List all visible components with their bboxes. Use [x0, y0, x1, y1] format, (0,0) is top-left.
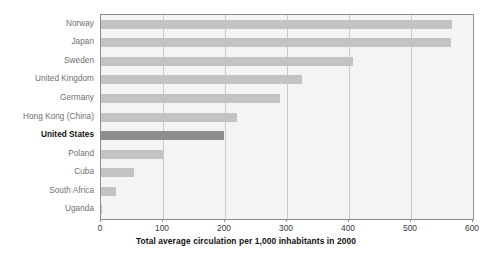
plot-area	[100, 14, 474, 220]
x-axis-tick-mark	[472, 219, 473, 222]
category-label: Norway	[0, 19, 94, 28]
bar	[101, 168, 134, 177]
x-axis-tick-mark	[348, 219, 349, 222]
x-axis-title: Total average circulation per 1,000 inha…	[0, 236, 492, 246]
x-axis-tick-label: 500	[390, 223, 430, 233]
bar	[101, 187, 116, 196]
bar	[101, 94, 280, 103]
x-axis-tick-mark	[100, 219, 101, 222]
category-label: Poland	[0, 149, 94, 158]
category-label: United States	[0, 130, 94, 139]
category-axis-labels: NorwayJapanSwedenUnited KingdomGermanyHo…	[0, 14, 94, 218]
bar	[101, 75, 302, 84]
category-label: Sweden	[0, 56, 94, 65]
category-label: Hong Kong (China)	[0, 112, 94, 121]
category-label: South Africa	[0, 186, 94, 195]
x-axis-tick-mark	[286, 219, 287, 222]
bar	[101, 113, 237, 122]
category-label: United Kingdom	[0, 74, 94, 83]
bar	[101, 205, 102, 214]
x-axis-tick-label: 300	[266, 223, 306, 233]
category-label: Germany	[0, 93, 94, 102]
x-axis-tick-mark	[410, 219, 411, 222]
x-axis-tick-mark	[162, 219, 163, 222]
bar	[101, 57, 353, 66]
x-axis-tick-label: 100	[142, 223, 182, 233]
bar	[101, 20, 452, 29]
bar	[101, 131, 224, 140]
x-axis-tick-label: 400	[328, 223, 368, 233]
bar-chart: NorwayJapanSwedenUnited KingdomGermanyHo…	[0, 0, 492, 253]
category-label: Japan	[0, 37, 94, 46]
x-axis-tick-label: 200	[204, 223, 244, 233]
category-label: Uganda	[0, 204, 94, 213]
x-axis-tick-label: 0	[80, 223, 120, 233]
bar	[101, 150, 163, 159]
x-axis-tick-label: 600	[452, 223, 492, 233]
bar	[101, 38, 451, 47]
x-axis-tick-mark	[224, 219, 225, 222]
category-label: Cuba	[0, 167, 94, 176]
